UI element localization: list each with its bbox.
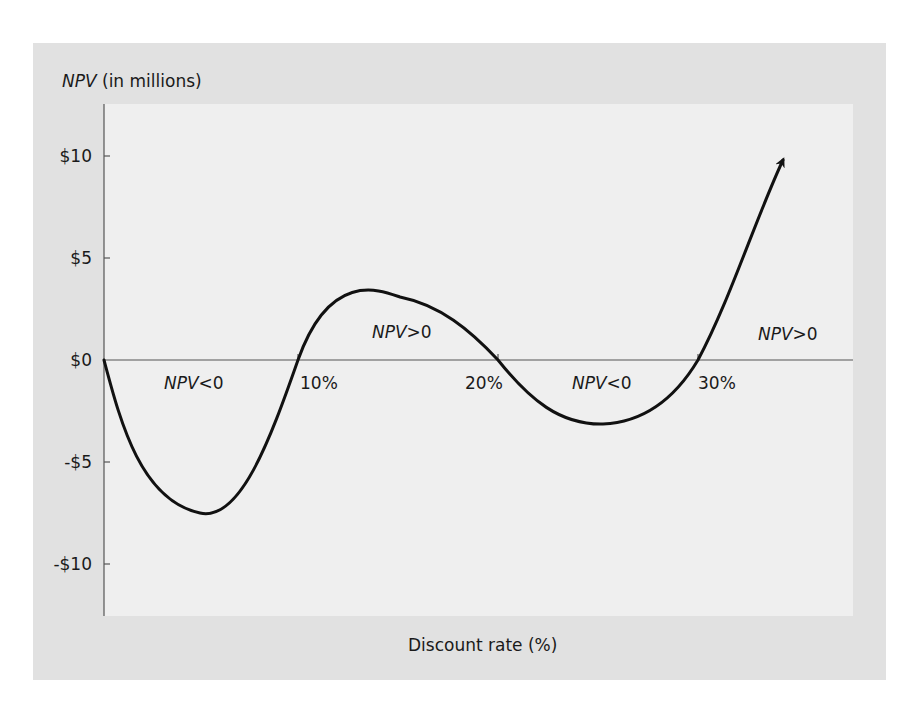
annotation-italic: NPV bbox=[758, 324, 793, 344]
y-axis-title-rest: (in millions) bbox=[97, 71, 202, 91]
y-tick-label: -$10 bbox=[32, 556, 92, 573]
x-tick-label: 10% bbox=[300, 375, 338, 392]
annotation-italic: NPV bbox=[572, 373, 607, 393]
x-tick-label: 30% bbox=[698, 375, 736, 392]
y-tick-label: $0 bbox=[32, 352, 92, 369]
annotation-rest: >0 bbox=[407, 322, 432, 342]
y-axis-title-italic: NPV bbox=[62, 71, 97, 91]
annotation-rest: <0 bbox=[607, 373, 632, 393]
npv-profile-curve bbox=[104, 160, 783, 514]
region-annotation: NPV<0 bbox=[572, 375, 632, 392]
npv-chart-svg bbox=[0, 0, 911, 707]
y-tick-label: $5 bbox=[32, 250, 92, 267]
y-tick-label: -$5 bbox=[32, 454, 92, 471]
region-annotation: NPV<0 bbox=[164, 375, 224, 392]
annotation-rest: <0 bbox=[199, 373, 224, 393]
x-axis-title: Discount rate (%) bbox=[408, 637, 557, 654]
region-annotation: NPV>0 bbox=[758, 326, 818, 343]
region-annotation: NPV>0 bbox=[372, 324, 432, 341]
x-tick-label: 20% bbox=[465, 375, 503, 392]
y-tick-label: $10 bbox=[32, 148, 92, 165]
y-axis-title: NPV (in millions) bbox=[62, 73, 202, 90]
annotation-italic: NPV bbox=[372, 322, 407, 342]
annotation-italic: NPV bbox=[164, 373, 199, 393]
annotation-rest: >0 bbox=[793, 324, 818, 344]
